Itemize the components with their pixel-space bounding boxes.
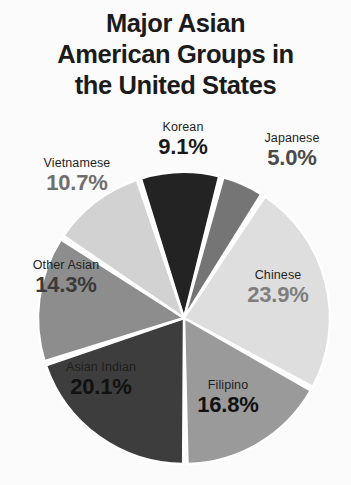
slice-label-asian-indian: Asian Indian 20.1%	[38, 360, 164, 399]
pie-slice-group	[38, 172, 330, 464]
slice-label-chinese: Chinese 23.9%	[222, 268, 334, 307]
slice-label-filipino: Filipino 16.8%	[168, 378, 288, 417]
slice-percent-asian-indian: 20.1%	[38, 374, 164, 399]
slice-category-filipino: Filipino	[168, 378, 288, 392]
slice-category-vietnamese: Vietnamese	[18, 156, 136, 170]
slice-category-japanese: Japanese	[238, 131, 346, 145]
slice-label-vietnamese: Vietnamese 10.7%	[18, 156, 136, 195]
slice-percent-filipino: 16.8%	[168, 392, 288, 417]
slice-category-chinese: Chinese	[222, 268, 334, 282]
slice-category-other-asian: Other Asian	[6, 258, 126, 272]
slice-percent-other-asian: 14.3%	[6, 272, 126, 297]
slice-label-korean: Korean 9.1%	[128, 120, 238, 159]
slice-percent-japanese: 5.0%	[238, 145, 346, 170]
slice-label-japanese: Japanese 5.0%	[238, 131, 346, 170]
slice-percent-korean: 9.1%	[128, 134, 238, 159]
slice-category-asian-indian: Asian Indian	[38, 360, 164, 374]
slice-label-other-asian: Other Asian 14.3%	[6, 258, 126, 297]
slice-percent-chinese: 23.9%	[222, 282, 334, 307]
slice-percent-vietnamese: 10.7%	[18, 170, 136, 195]
slice-category-korean: Korean	[128, 120, 238, 134]
